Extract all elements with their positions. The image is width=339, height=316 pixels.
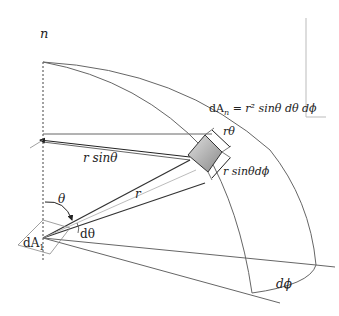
solid-angle-diagram	[0, 0, 339, 316]
d-theta-label: dθ	[80, 228, 95, 240]
equation-label: dAn = r² sinθ dθ dϕ	[209, 103, 317, 117]
normal-label: n	[40, 27, 48, 40]
dA1-sub: 1	[39, 243, 44, 252]
leader-tick	[30, 140, 43, 148]
dA1-main: dA	[23, 236, 39, 250]
inner-meridian-arc	[43, 62, 252, 293]
r-sin-theta-label: r sinθ	[83, 152, 118, 164]
d-phi-label: dϕ	[276, 278, 292, 290]
dA1-label: dA1	[23, 237, 44, 252]
ray-mid	[43, 170, 196, 238]
equation-rhs: = r² sinθ dθ dϕ	[229, 102, 316, 115]
r-sin-theta-dphi-label: r sinθdϕ	[223, 166, 269, 177]
base-ray-1-ext	[316, 265, 335, 267]
r-theta-label: rθ	[223, 126, 235, 137]
dphi-ext-line	[222, 152, 231, 158]
dAn-shaded-patch	[188, 135, 222, 172]
equation-lhs: dA	[209, 102, 224, 115]
theta-label: θ	[58, 193, 65, 205]
dphi-ext-line	[208, 172, 212, 180]
r-theta-ext-line	[222, 146, 231, 152]
base-ray-1	[43, 238, 316, 265]
d-theta-arc	[77, 223, 79, 233]
r-label: r	[135, 188, 141, 200]
base-ray-2	[43, 238, 280, 303]
